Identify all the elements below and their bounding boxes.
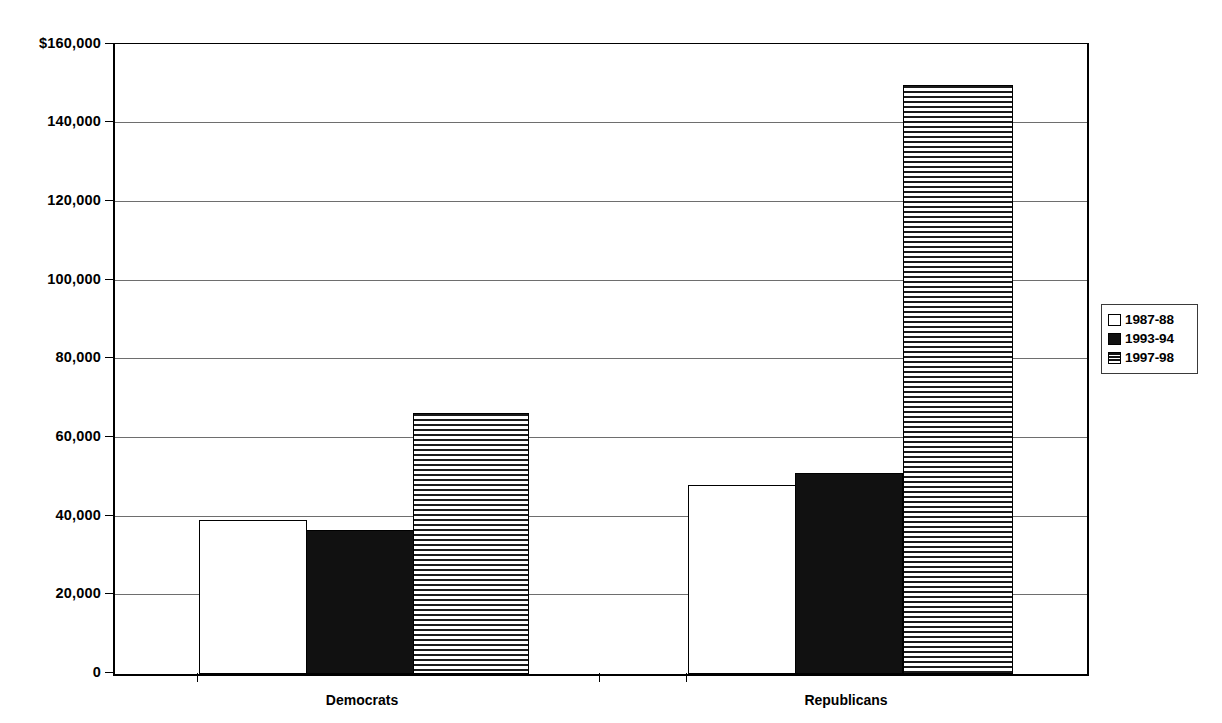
- bar-republicans-1993-94: [795, 473, 903, 674]
- x-axis-tick: [197, 673, 198, 682]
- y-axis-label: 20,000: [1, 586, 101, 601]
- bar-republicans-1987-88: [688, 485, 796, 674]
- y-axis-tick: [105, 357, 113, 358]
- legend-item-1997-98: 1997-98: [1108, 348, 1191, 367]
- y-axis-tick: [105, 121, 113, 122]
- y-axis-tick: [105, 279, 113, 280]
- legend-item-label: 1987-88: [1125, 312, 1174, 327]
- bar-democrats-1997-98: [413, 413, 529, 674]
- bar-chart: $160,000 140,000 120,000 100,000 80,000 …: [0, 0, 1222, 723]
- legend-item-label: 1993-94: [1125, 331, 1174, 346]
- legend-swatch-icon: [1108, 352, 1121, 364]
- legend-item-1987-88: 1987-88: [1108, 310, 1191, 329]
- bar-republicans-1997-98: [903, 85, 1013, 674]
- y-axis-tick: [105, 672, 113, 673]
- y-axis-tick: [105, 43, 113, 44]
- y-axis-tick: [105, 593, 113, 594]
- y-axis-tick: [105, 200, 113, 201]
- x-axis-tick: [599, 673, 600, 682]
- y-axis-label: 100,000: [1, 272, 101, 287]
- plot-area: [113, 43, 1089, 676]
- y-axis-label: 60,000: [1, 429, 101, 444]
- bar-democrats-1993-94: [306, 530, 414, 674]
- y-axis-label: 140,000: [1, 114, 101, 129]
- x-axis-tick: [686, 673, 687, 682]
- y-axis-label: 120,000: [1, 193, 101, 208]
- legend-item-label: 1997-98: [1125, 350, 1174, 365]
- x-axis-category-label-democrats: Democrats: [262, 692, 462, 708]
- legend-swatch-icon: [1108, 314, 1121, 326]
- legend-item-1993-94: 1993-94: [1108, 329, 1191, 348]
- legend-swatch-icon: [1108, 333, 1121, 345]
- bar-democrats-1987-88: [199, 520, 307, 674]
- y-axis-label: 0: [1, 665, 101, 680]
- y-axis-label: $160,000: [1, 36, 101, 51]
- y-axis-label: 80,000: [1, 350, 101, 365]
- y-axis-tick: [105, 515, 113, 516]
- y-axis-tick: [105, 436, 113, 437]
- y-axis-label: 40,000: [1, 508, 101, 523]
- legend: 1987-88 1993-94 1997-98: [1101, 304, 1198, 374]
- x-axis-category-label-republicans: Republicans: [746, 692, 946, 708]
